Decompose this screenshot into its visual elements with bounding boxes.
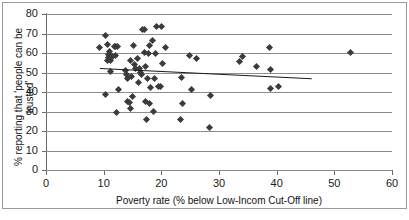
x-tick-label: 50 (319, 178, 349, 189)
y-tick-label: 50 (12, 67, 38, 78)
data-point (135, 79, 142, 86)
x-tick-label: 60 (377, 178, 407, 189)
data-point (206, 124, 213, 131)
data-point (113, 109, 120, 116)
gridline (46, 92, 392, 93)
y-tick-label: 20 (12, 125, 38, 136)
y-tick-label: 60 (12, 47, 38, 58)
gridline (46, 34, 392, 35)
x-tick-mark (161, 171, 162, 175)
page-artifact-text (30, 212, 380, 218)
y-tick-label: 40 (12, 86, 38, 97)
y-tick-label-text: 40 (14, 86, 38, 97)
data-point (267, 85, 274, 92)
x-tick-mark (104, 171, 105, 175)
gridline (46, 14, 392, 15)
y-tick-label: 70 (12, 28, 38, 39)
data-point (158, 23, 165, 30)
data-point (130, 42, 137, 49)
data-point (253, 63, 260, 70)
y-tick-label: 80 (12, 8, 38, 19)
x-tick-label: 20 (146, 178, 176, 189)
data-point (162, 44, 169, 51)
data-point (147, 84, 154, 91)
y-tick-label-text: 10 (14, 145, 38, 156)
data-point (207, 92, 214, 99)
data-point (151, 75, 158, 82)
x-tick-label: 10 (89, 178, 119, 189)
x-tick-mark (277, 171, 278, 175)
data-point (266, 44, 273, 51)
data-point (193, 55, 200, 62)
gridline (46, 151, 392, 152)
data-point (152, 50, 159, 57)
data-point (178, 74, 185, 81)
x-axis-title: Poverty rate (% below Low-Incom Cut-Off … (46, 195, 392, 207)
data-point (347, 49, 354, 56)
gridline (46, 112, 392, 113)
y-tick-label: 0 (12, 164, 38, 175)
x-tick-label: 40 (262, 178, 292, 189)
data-point (177, 116, 184, 123)
y-tick-label-text: 0 (14, 164, 38, 175)
gridline (46, 131, 392, 132)
data-point (143, 116, 150, 123)
data-point (179, 100, 186, 107)
y-tick-label: 30 (12, 106, 38, 117)
x-tick-mark (46, 171, 47, 175)
y-tick-label-text: 80 (14, 8, 38, 19)
data-point (159, 60, 166, 67)
y-tick-label-text: 60 (14, 47, 38, 58)
y-tick-label-text: 20 (14, 125, 38, 136)
x-tick-label: 30 (204, 178, 234, 189)
plot-area (46, 14, 392, 170)
data-point (102, 32, 109, 39)
data-point (146, 100, 153, 107)
y-tick-label-text: 70 (14, 28, 38, 39)
y-tick-label-text: 50 (14, 67, 38, 78)
x-tick-mark (219, 171, 220, 175)
gridline (46, 53, 392, 54)
data-point (150, 108, 157, 115)
x-tick-mark (334, 171, 335, 175)
scatter-chart-figure: % reporting that 'people can be trusted'… (0, 0, 409, 220)
y-tick-label-text: 30 (14, 106, 38, 117)
x-tick-mark (392, 171, 393, 175)
y-tick-label: 10 (12, 145, 38, 156)
x-tick-label: 0 (31, 178, 61, 189)
data-point (96, 44, 103, 51)
data-point (275, 83, 282, 90)
